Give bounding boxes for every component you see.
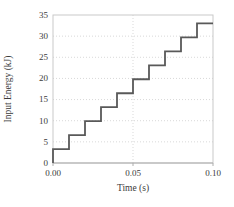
y-tick-label: 35 [39,10,49,20]
y-tick-label: 25 [39,52,49,62]
y-axis-tick-labels: 05101520253035 [39,10,49,168]
step-chart: 05101520253035 0.000.050.10 Input Energy… [0,0,234,207]
y-axis-title: Input Energy (kJ) [3,56,14,123]
x-tick-label: 0.00 [45,168,61,178]
chart-canvas: 05101520253035 0.000.050.10 Input Energy… [0,0,234,207]
x-axis-title: Time (s) [117,183,149,194]
x-axis-tick-labels: 0.000.050.10 [45,168,221,178]
y-tick-label: 15 [39,94,49,104]
y-tick-label: 20 [39,73,49,83]
y-tick-label: 30 [39,31,49,41]
x-tick-label: 0.05 [125,168,141,178]
y-tick-label: 0 [44,158,49,168]
y-tick-label: 5 [44,137,49,147]
y-tick-label: 10 [39,116,49,126]
x-tick-label: 0.10 [205,168,221,178]
